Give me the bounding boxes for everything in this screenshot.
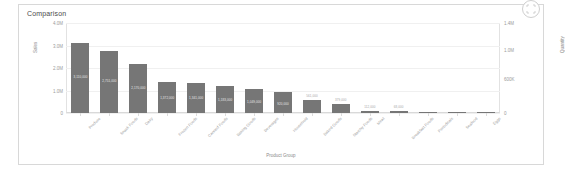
bar-column[interactable] — [477, 23, 495, 113]
y-axis-tick-left: 1.0M — [53, 88, 63, 93]
bar-column[interactable]: 920,000 — [274, 23, 292, 113]
bar[interactable]: 1,049,000 — [245, 89, 263, 113]
bar-data-label: 2,170,000 — [131, 86, 145, 90]
bar-column[interactable]: 112,000 — [361, 23, 379, 113]
x-axis-tickmark — [109, 113, 110, 116]
bar-data-label: 561,000 — [306, 94, 318, 98]
bar-column[interactable]: 1,372,000 — [158, 23, 176, 113]
x-axis-tickmark — [457, 113, 458, 116]
bar-column[interactable]: 2,751,000 — [100, 23, 118, 113]
y-axis-tick-right: 1.4M — [504, 21, 514, 26]
y-axis-tick-right: 0 — [504, 111, 507, 116]
bar-data-label: 112,000 — [364, 105, 375, 109]
y-axis-title-right: Quantity — [560, 36, 565, 53]
bar-data-label: 1,341,000 — [189, 96, 203, 100]
bar-data-label: 3,110,000 — [73, 75, 87, 79]
x-axis-tick-label: Dairy — [144, 116, 154, 126]
bar-data-label: 2,751,000 — [102, 79, 116, 83]
x-axis-tick-label: Canned Foods — [207, 116, 229, 138]
chart-visual-card: Comparison Sales Quantity Product Group … — [18, 4, 544, 165]
bar-data-label: 1,049,000 — [247, 100, 261, 104]
y-axis-title-left: Sales — [33, 42, 38, 53]
focus-mode-button[interactable] — [522, 0, 540, 18]
bar[interactable] — [303, 100, 321, 113]
x-axis-tickmark — [486, 113, 487, 116]
x-axis-tickmark — [167, 113, 168, 116]
y-axis-tick-left: 0 — [60, 111, 63, 116]
x-axis-tick-label: Starchy Foods — [351, 116, 373, 138]
chart-title: Comparison — [27, 10, 66, 17]
x-axis-tick-label: Beverages — [263, 116, 280, 133]
x-axis-tick-label: Breakfast Foods — [410, 116, 434, 140]
x-axis-tick-label: Snack Foods — [119, 116, 139, 136]
x-axis-tickmark — [225, 113, 226, 116]
plot-area: 3,110,0002,751,0002,170,0001,372,0001,34… — [66, 23, 500, 113]
x-axis-title: Product Group — [19, 153, 543, 158]
x-axis-tickmark — [80, 113, 81, 116]
bar[interactable]: 1,341,000 — [187, 83, 205, 113]
bar-column[interactable]: 561,000 — [303, 23, 321, 113]
y-axis-tick-left: 4.0M — [53, 21, 63, 26]
bar-data-label: 1,372,000 — [160, 96, 174, 100]
x-axis-tick-label: Household — [292, 116, 309, 133]
bar-column[interactable]: 1,049,000 — [245, 23, 263, 113]
bar-column[interactable]: 1,183,000 — [216, 23, 234, 113]
bar-column[interactable] — [448, 23, 466, 113]
x-axis-tick-label: Seafood — [464, 116, 478, 130]
x-axis-tickmark — [370, 113, 371, 116]
x-axis-tick-label: Periodicals — [436, 116, 453, 133]
x-axis-tick-label: Eggs — [491, 116, 501, 126]
x-axis-tickmark — [283, 113, 284, 116]
x-axis-tick-label: Baking Goods — [235, 116, 256, 137]
x-axis-tickmark — [138, 113, 139, 116]
x-axis-tickmark — [428, 113, 429, 116]
x-axis-tickmark — [312, 113, 313, 116]
x-axis-tickmark — [196, 113, 197, 116]
y-axis-tick-left: 2.0M — [53, 66, 63, 71]
bar-column[interactable]: 68,000 — [390, 23, 408, 113]
x-axis-tick-label: Frozen Foods — [177, 116, 198, 137]
y-axis-tick-left: 3.0M — [53, 43, 63, 48]
y-axis-left: 4.0M3.0M2.0M1.0M0 — [39, 23, 63, 113]
x-axis-tick-label: Baked Goods — [322, 116, 343, 137]
bar-data-label: 920,000 — [277, 102, 289, 106]
bar[interactable]: 2,751,000 — [100, 51, 118, 113]
y-axis-tick-right: 600K — [504, 76, 515, 81]
bar-column[interactable] — [419, 23, 437, 113]
y-axis-tick-right: 1.0M — [504, 48, 514, 53]
bar-data-label: 379,000 — [335, 98, 347, 102]
bar[interactable]: 920,000 — [274, 92, 292, 113]
bar[interactable] — [332, 104, 350, 113]
x-axis-tickmark — [254, 113, 255, 116]
bar-column[interactable]: 2,170,000 — [129, 23, 147, 113]
x-axis-tickmark — [399, 113, 400, 116]
bar-column[interactable]: 1,341,000 — [187, 23, 205, 113]
bar[interactable]: 1,183,000 — [216, 86, 234, 113]
bar[interactable]: 1,372,000 — [158, 82, 176, 113]
x-axis-tickmark — [341, 113, 342, 116]
bar-data-label: 68,000 — [394, 105, 404, 109]
x-axis-tick-label: Meat — [375, 116, 385, 126]
bar-column[interactable]: 379,000 — [332, 23, 350, 113]
bar-column[interactable]: 3,110,000 — [71, 23, 89, 113]
bar[interactable]: 3,110,000 — [71, 43, 89, 113]
x-axis-tick-label: Produce — [88, 116, 102, 130]
focus-mode-icon — [526, 4, 536, 14]
bar-data-label: 1,183,000 — [218, 98, 232, 102]
bar[interactable]: 2,170,000 — [129, 64, 147, 113]
y-axis-right: 1.4M1.0M600K0 — [504, 23, 534, 113]
